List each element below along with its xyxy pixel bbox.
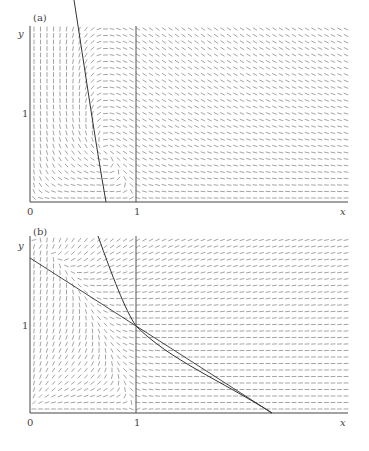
panel-b-x-tick: 1 [134, 417, 140, 428]
panel-a-y-tick: 1 [22, 108, 28, 119]
direction-field-figure [0, 0, 369, 451]
panel-b-origin: 0 [27, 417, 33, 428]
panel-b-y-tick: 1 [22, 320, 28, 331]
panel-b-label: (b) [33, 226, 47, 237]
panel-a-label: (a) [33, 12, 47, 23]
panel-b-y-label: y [18, 240, 24, 251]
panel-a-y-label: y [18, 28, 24, 39]
panel-a-origin: 0 [27, 206, 33, 217]
panel-b-x-label: x [340, 417, 346, 428]
panel-a-x-label: x [340, 206, 346, 217]
panel-a-x-tick: 1 [134, 206, 140, 217]
